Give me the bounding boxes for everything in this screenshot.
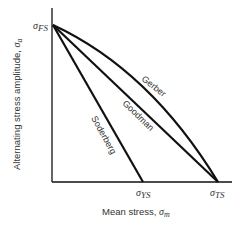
goodman-line — [53, 25, 218, 182]
sigma-ts-label: σTS — [210, 187, 225, 200]
gerber-label: Gerber — [140, 74, 168, 99]
soderberg-label: Soderberg — [89, 114, 118, 156]
sigma-fs-label: σFS — [33, 20, 48, 33]
sigma-ys-label: σYS — [136, 187, 151, 200]
y-axis-title: Alternating stress amplitude, σa — [11, 39, 24, 170]
x-axis-title: Mean stress, σm — [102, 206, 170, 219]
goodman-label: Goodman — [121, 98, 156, 133]
fatigue-diagram: Soderberg Goodman Gerber σFS σYS σTS Mea… — [0, 0, 243, 229]
